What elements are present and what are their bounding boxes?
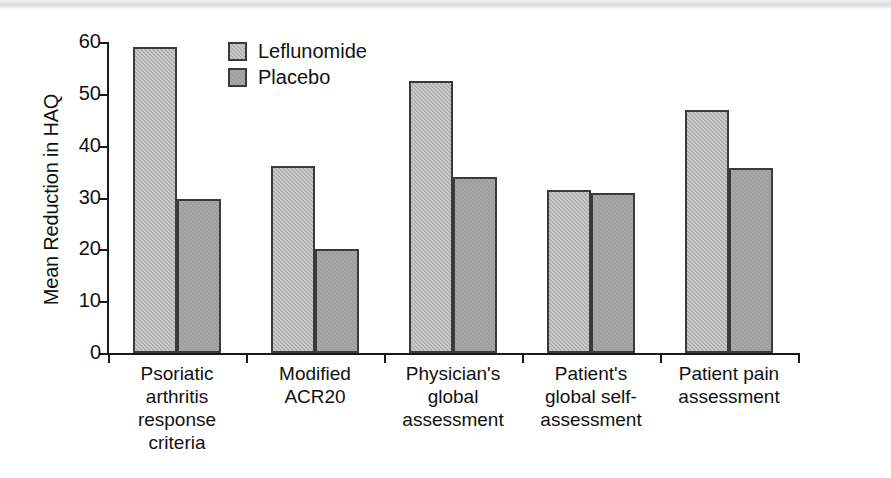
chart-legend: LeflunomidePlacebo [228,38,367,90]
legend-swatch-placebo [228,68,247,87]
legend-item: Leflunomide [228,38,367,64]
legend-item: Placebo [228,64,367,90]
legend-label: Placebo [258,65,330,89]
x-axis-category-label: Patient pain assessment [660,362,798,408]
y-axis-tick-label: 50 [79,81,101,105]
x-axis-category-label: Modified ACR20 [246,362,384,408]
x-axis-category-label: Patient's global self- assessment [522,362,660,431]
x-axis-category-label: Physician's global assessment [384,362,522,431]
y-axis-tick-label: 60 [79,29,101,53]
bar-chart: Mean Reduction in HAQ 0102030405060 Lefl… [0,0,891,478]
legend-swatch-leflunomide [228,42,247,61]
plot-area: 0102030405060 [108,42,798,353]
y-axis-tick-label: 40 [79,133,101,157]
y-axis-tick-label: 20 [79,236,101,260]
bar-leflunomide [685,110,729,353]
x-axis-category-label: Psoriatic arthritis response criteria [108,362,246,454]
bar-group [108,42,798,353]
bar-placebo [729,168,773,353]
x-axis-line [107,353,799,355]
y-axis-tick-label: 30 [79,185,101,209]
legend-label: Leflunomide [258,39,367,63]
x-axis-tick-mark [798,353,800,363]
y-axis-tick-label: 0 [90,340,101,364]
y-axis-tick-label: 10 [79,288,101,312]
y-axis-title: Mean Reduction in HAQ [34,44,68,355]
